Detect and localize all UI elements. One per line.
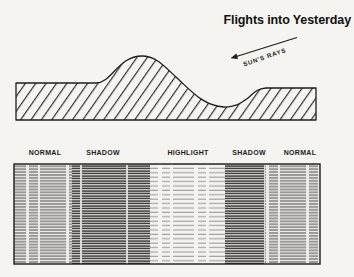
zone-label-highlight: HIGHLIGHT (167, 149, 208, 156)
terrain-diagram: SUN'S RAYS (0, 0, 354, 277)
zone-label-shadow-left: SHADOW (86, 149, 120, 156)
page-title: Flights into Yesterday (224, 13, 351, 27)
suns-rays-label: SUN'S RAYS (242, 46, 287, 67)
zone-label-normal-right: NORMAL (284, 149, 317, 156)
arrowhead-icon (231, 54, 239, 59)
zone-label-shadow-right: SHADOW (232, 149, 266, 156)
zone-label-normal-left: NORMAL (29, 149, 62, 156)
scanned-page: SUN'S RAYS Flights into Yesterday NORMAL… (0, 0, 354, 277)
tone-strip (14, 164, 320, 264)
terrain-cross-section (16, 56, 316, 120)
